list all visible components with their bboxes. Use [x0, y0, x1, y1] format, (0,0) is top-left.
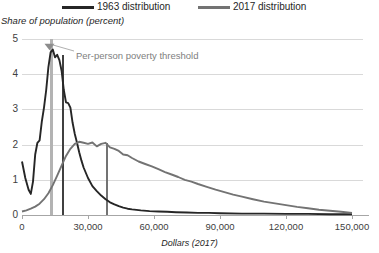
poverty-threshold-annotation: Per-person poverty threshold [76, 50, 199, 61]
series-line-1963 [22, 50, 352, 215]
poverty-distribution-chart: 1963 distribution 2017 distribution Shar… [0, 0, 379, 253]
series-layer [0, 0, 379, 253]
annotation-leader-line [53, 45, 75, 51]
series-line-2017 [22, 142, 352, 213]
